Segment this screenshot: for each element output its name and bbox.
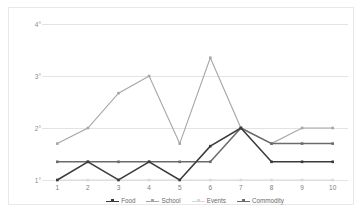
data-point-marker	[56, 142, 59, 145]
x-tick-label: 4	[141, 183, 157, 192]
x-tick-label: 5	[172, 183, 188, 192]
data-point-marker	[331, 142, 334, 145]
data-point-marker	[331, 127, 334, 130]
data-point-marker	[331, 179, 334, 182]
data-point-marker	[270, 179, 273, 182]
legend-item-commodity[interactable]: Commodity	[237, 197, 284, 205]
y-tick-label: 1°	[19, 177, 41, 184]
series-food	[56, 127, 334, 182]
data-point-marker	[178, 179, 181, 182]
data-point-marker	[240, 179, 243, 182]
legend-swatch-icon	[146, 199, 159, 204]
x-tick-label: 2	[80, 183, 96, 192]
x-tick-label: 1	[49, 183, 65, 192]
data-point-marker	[240, 127, 243, 130]
data-point-marker	[148, 179, 151, 182]
y-tick-label: 2°	[19, 125, 41, 132]
data-point-marker	[209, 145, 212, 148]
x-tick-label: 9	[294, 183, 310, 192]
data-point-marker	[301, 161, 304, 164]
data-point-marker	[209, 57, 212, 60]
legend-swatch-icon	[192, 199, 205, 204]
chart-legend: FoodSchoolEventsCommodity	[42, 195, 348, 207]
y-tick-label: 3°	[19, 73, 41, 80]
data-point-marker	[56, 161, 59, 164]
legend-swatch-icon	[237, 199, 250, 204]
series-school	[56, 57, 334, 145]
legend-item-events[interactable]: Events	[192, 197, 226, 205]
data-point-marker	[209, 161, 212, 164]
data-point-marker	[209, 179, 212, 182]
data-point-marker	[301, 127, 304, 130]
series-line	[57, 58, 332, 144]
data-point-marker	[270, 142, 273, 145]
data-point-marker	[87, 161, 90, 164]
data-point-marker	[331, 161, 334, 164]
legend-item-food[interactable]: Food	[106, 197, 135, 205]
data-point-marker	[117, 92, 120, 95]
data-point-marker	[148, 161, 151, 164]
y-axis-tick-labels: 1°2°3°4°	[17, 24, 41, 180]
series-line	[57, 128, 332, 180]
x-tick-label: 3	[111, 183, 127, 192]
legend-item-school[interactable]: School	[146, 197, 180, 205]
data-point-marker	[270, 161, 273, 164]
data-point-marker	[148, 75, 151, 78]
data-point-marker	[178, 161, 181, 164]
x-tick-label: 6	[202, 183, 218, 192]
data-point-marker	[117, 161, 120, 164]
data-point-marker	[178, 142, 181, 145]
x-axis-tick-labels: 12345678910	[42, 183, 348, 195]
data-point-marker	[301, 142, 304, 145]
legend-swatch-icon	[106, 199, 119, 204]
legend-item-label: Events	[207, 197, 226, 205]
legend-item-label: Food	[121, 197, 135, 205]
data-point-marker	[56, 179, 59, 182]
data-point-marker	[301, 179, 304, 182]
data-point-marker	[87, 127, 90, 130]
plot-area	[42, 24, 348, 180]
chart-frame: 1°2°3°4° 12345678910 FoodSchoolEventsCom…	[8, 7, 354, 205]
data-point-marker	[87, 179, 90, 182]
y-tick-label: 4°	[19, 21, 41, 28]
data-point-marker	[117, 179, 120, 182]
legend-item-label: Commodity	[252, 197, 284, 205]
x-tick-label: 10	[325, 183, 341, 192]
x-tick-label: 8	[264, 183, 280, 192]
legend-item-label: School	[161, 197, 180, 205]
series-commodity	[56, 127, 334, 163]
x-tick-label: 7	[233, 183, 249, 192]
series-lines	[42, 24, 348, 180]
